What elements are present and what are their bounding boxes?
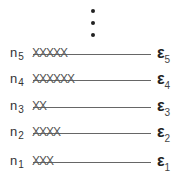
particle-marks: XXXXXX: [32, 72, 74, 86]
particle-marks: XXX: [32, 154, 53, 168]
energy-line: [33, 107, 151, 108]
level-3: n3 XX ε3: [0, 98, 182, 118]
occupation-label: n3: [10, 98, 24, 113]
level-2: n2 XXXX ε2: [0, 124, 182, 144]
level-1: n1 XXX ε1: [0, 153, 182, 173]
level-5: n5 XXXXX ε5: [0, 45, 182, 65]
level-4: n4 XXXXXX ε4: [0, 71, 182, 91]
ellipsis-dot: [91, 9, 95, 13]
occupation-label: n2: [10, 124, 24, 139]
energy-label: ε3: [157, 97, 170, 115]
energy-label: ε5: [157, 44, 170, 62]
particle-marks: XX: [32, 99, 46, 113]
occupation-label: n1: [10, 153, 24, 168]
occupation-label: n5: [10, 45, 24, 60]
ellipsis-dot: [91, 21, 95, 25]
particle-marks: XXXX: [32, 125, 60, 139]
energy-label: ε2: [157, 123, 170, 141]
occupation-label: n4: [10, 71, 24, 86]
ellipsis-dot: [91, 33, 95, 37]
energy-label: ε4: [157, 70, 170, 88]
energy-label: ε1: [157, 152, 170, 170]
particle-marks: XXXXX: [32, 46, 67, 60]
